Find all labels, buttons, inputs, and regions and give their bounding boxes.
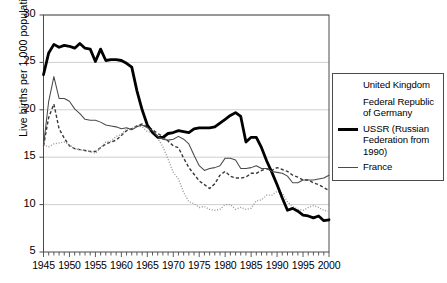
series-line-france bbox=[44, 77, 330, 183]
series-line-federal-republic-of-germany bbox=[44, 126, 330, 211]
plot-frame bbox=[44, 15, 330, 252]
legend-item[interactable]: France bbox=[338, 161, 439, 174]
y-tick-label: 25 bbox=[12, 54, 36, 66]
y-tick-label: 20 bbox=[12, 102, 36, 114]
y-tick-label: 15 bbox=[12, 149, 36, 161]
legend[interactable]: United KingdomFederal Republic of German… bbox=[332, 73, 444, 181]
legend-item[interactable]: United Kingdom bbox=[338, 79, 439, 92]
legend-line-sample-icon bbox=[338, 124, 358, 136]
legend-item[interactable]: Federal Republic of Germany bbox=[338, 96, 439, 119]
legend-item-label: France bbox=[363, 161, 392, 172]
y-tick-label: 30 bbox=[12, 7, 36, 19]
legend-item[interactable]: USSR (Russian Federation from 1990) bbox=[338, 123, 439, 157]
series-line-ussr-russian-federation-from-1990 bbox=[44, 43, 330, 220]
legend-line-sample-icon bbox=[338, 97, 358, 109]
birth-rate-line-chart: Live births per 1,000 population 3025201… bbox=[0, 0, 447, 283]
series-line-united-kingdom bbox=[44, 104, 330, 190]
y-tick-label: 10 bbox=[12, 197, 36, 209]
x-tick-label: 2000 bbox=[312, 259, 346, 271]
legend-line-sample-icon bbox=[338, 162, 358, 174]
legend-item-label: USSR (Russian Federation from 1990) bbox=[363, 123, 439, 157]
legend-item-label: Federal Republic of Germany bbox=[363, 96, 439, 119]
legend-line-sample-icon bbox=[338, 80, 358, 92]
y-tick-label: 5 bbox=[12, 244, 36, 256]
legend-item-label: United Kingdom bbox=[363, 79, 430, 90]
